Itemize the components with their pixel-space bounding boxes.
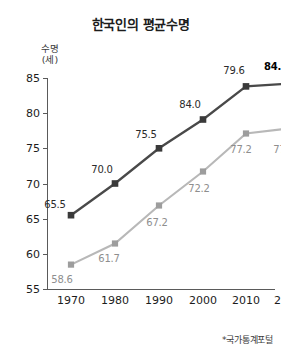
dark-point-label-2010: 79.6 <box>223 65 244 76</box>
y-tick-label-75: 75 <box>26 142 40 155</box>
y-tick-label-65: 65 <box>26 212 40 225</box>
y-axis-title-text: 수명 <box>28 44 72 55</box>
plot-area: 85 80 75 70 65 60 55 1970 1980 1990 2000… <box>47 78 275 290</box>
x-tick-label-1980: 1980 <box>101 294 129 307</box>
y-axis-title: 수명 (세) <box>28 44 72 65</box>
light-point-label-1980: 61.7 <box>98 253 119 264</box>
y-tick-label-55: 55 <box>26 283 40 296</box>
series-plot <box>47 78 275 290</box>
y-axis-unit-text: (세) <box>28 55 72 66</box>
dark-point-label-1990: 75.5 <box>135 129 156 140</box>
dark-point-label-2011: 84.4 <box>264 61 281 72</box>
source-note: *국가통계포털 <box>222 333 273 346</box>
light-point-label-2010: 77.2 <box>230 144 251 155</box>
x-tick-label-1990: 1990 <box>145 294 173 307</box>
light-point-label-2000: 72.2 <box>188 183 209 194</box>
dark-point-label-1980: 70.0 <box>91 164 112 175</box>
light-point-label-2011: 77.6 <box>273 144 281 155</box>
y-tick-label-80: 80 <box>26 107 40 120</box>
chart-title: 한국인의 평균수명 <box>0 14 281 33</box>
chart-container: 한국인의 평균수명 수명 (세) 85 80 75 70 65 60 55 19… <box>0 0 281 355</box>
light-point-label-1990: 67.2 <box>146 217 167 228</box>
y-tick-label-85: 85 <box>26 72 40 85</box>
x-tick-label-2000: 2000 <box>189 294 217 307</box>
dark-point-label-2000: 84.0 <box>179 99 200 110</box>
light-point-label-1970: 58.6 <box>51 274 72 285</box>
y-tick-label-60: 60 <box>26 247 40 260</box>
y-tick-label-70: 70 <box>26 177 40 190</box>
x-tick-label-1970: 1970 <box>57 294 85 307</box>
x-tick-label-2010: 2010 <box>232 294 260 307</box>
x-tick-label-2011: 2011 <box>274 294 281 307</box>
dark-point-label-1970: 65.5 <box>44 199 65 210</box>
